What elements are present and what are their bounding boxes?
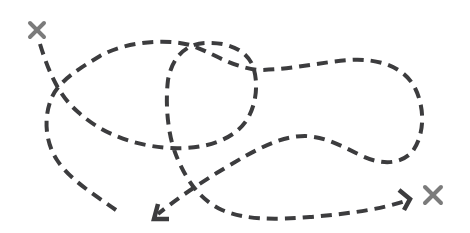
route-a-dashed-line [40, 43, 408, 219]
dashed-route-illustration [0, 0, 470, 233]
end-x-mark-icon [425, 187, 441, 203]
route-a [40, 43, 410, 219]
routes-layer [40, 42, 422, 219]
start-x-mark-icon [30, 23, 44, 37]
arrowhead-icon [399, 190, 410, 210]
